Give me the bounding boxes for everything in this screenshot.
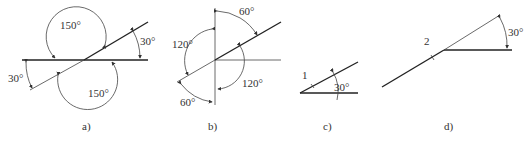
panel-c: 1 30° c) xyxy=(300,62,358,133)
diagonal-lower xyxy=(30,60,84,90)
arc-30-left xyxy=(26,62,32,88)
line-label: 1 xyxy=(302,69,308,81)
arc-120-right xyxy=(218,46,244,89)
panel-b: 60° 120° 120° 60° b) xyxy=(172,5,281,133)
panel-a: 150° 150° 30° 30° a) xyxy=(8,7,155,133)
line-label: 2 xyxy=(424,35,430,47)
caption-a: a) xyxy=(82,120,91,133)
caption-d: d) xyxy=(444,120,454,133)
angle-label: 30° xyxy=(334,81,349,93)
angle-label: 120° xyxy=(242,77,263,89)
angle-diagrams: 150° 150° 30° 30° a) 60° 120° 120° 60° b… xyxy=(0,0,532,145)
caption-c: c) xyxy=(323,120,332,133)
angle-label: 120° xyxy=(172,38,193,50)
diagonal-upper xyxy=(84,22,148,60)
angle-label: 30° xyxy=(8,72,23,84)
arc-30 xyxy=(500,18,507,48)
angle-label: 30° xyxy=(140,35,155,47)
angle-label: 150° xyxy=(88,87,109,99)
diagonal-lower xyxy=(177,60,215,82)
panel-d: 2 30° d) xyxy=(382,15,523,133)
diagonal-lower xyxy=(382,50,444,87)
angle-label: 60° xyxy=(180,96,195,108)
diagonal-upper xyxy=(215,22,281,60)
arc-150-bottom xyxy=(58,62,118,110)
arc-150-top xyxy=(46,7,106,58)
angle-label: 150° xyxy=(60,19,81,31)
diagonal-upper xyxy=(444,15,500,50)
arc-30-right xyxy=(133,31,140,58)
caption-b: b) xyxy=(208,120,218,133)
arc-120-left xyxy=(185,29,212,75)
angle-label: 60° xyxy=(239,5,254,17)
angle-label: 30° xyxy=(508,26,523,38)
